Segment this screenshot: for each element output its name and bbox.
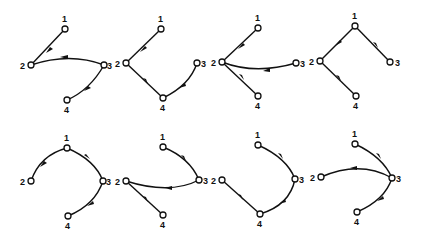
node-1 — [255, 142, 261, 148]
node-label: 3 — [107, 61, 112, 71]
node-label: 2 — [115, 59, 120, 69]
node-label: 1 — [255, 130, 260, 140]
node-1 — [158, 26, 164, 32]
node-label: 2 — [211, 58, 216, 68]
panel-5: 1 2 3 4 — [20, 133, 111, 231]
node-label: 2 — [310, 173, 315, 183]
node-label: 4 — [64, 105, 69, 115]
node-2 — [28, 178, 34, 184]
node-2 — [123, 178, 129, 184]
node-4 — [255, 93, 261, 99]
panel-8: 1 2 3 4 — [310, 129, 401, 227]
arrow-icon — [279, 199, 286, 204]
panel-6: 1 2 3 4 — [115, 132, 208, 230]
node-label: 2 — [20, 177, 25, 187]
node-label: 2 — [115, 177, 120, 187]
diagram-canvas: 1 2 3 4 1 2 3 4 1 2 3 4 — [0, 0, 423, 243]
node-1 — [64, 145, 70, 151]
node-4 — [65, 213, 71, 219]
node-label: 1 — [255, 13, 260, 23]
node-label: 4 — [65, 221, 70, 231]
node-4 — [160, 95, 166, 101]
node-label: 3 — [203, 176, 208, 186]
node-label: 1 — [352, 11, 357, 21]
node-4 — [354, 209, 360, 215]
node-label: 3 — [300, 59, 305, 69]
node-4 — [64, 97, 70, 103]
node-3 — [194, 60, 200, 66]
node-label: 4 — [354, 217, 359, 227]
node-2 — [318, 174, 324, 180]
node-label: 1 — [352, 129, 357, 139]
node-2 — [28, 62, 34, 68]
panel-1: 1 2 3 4 — [20, 14, 112, 115]
panel-3: 1 2 3 4 — [211, 13, 305, 111]
arrow-icon — [165, 186, 172, 190]
node-label: 4 — [353, 101, 358, 111]
panel-2: 1 2 3 4 — [115, 14, 206, 113]
node-2 — [219, 177, 225, 183]
node-1 — [255, 25, 261, 31]
node-label: 3 — [395, 58, 400, 68]
node-4 — [257, 211, 263, 217]
node-3 — [196, 177, 202, 183]
node-1 — [352, 23, 358, 29]
node-label: 4 — [255, 101, 260, 111]
panel-4: 1 2 3 4 — [309, 11, 400, 111]
node-2 — [123, 60, 129, 66]
node-3 — [293, 60, 299, 66]
node-label: 2 — [309, 57, 314, 67]
node-label: 2 — [20, 61, 25, 71]
node-3 — [292, 176, 298, 182]
node-label: 2 — [211, 176, 216, 186]
node-label: 3 — [201, 59, 206, 69]
node-4 — [160, 212, 166, 218]
node-4 — [353, 93, 359, 99]
panel-7: 1 2 3 4 — [211, 130, 304, 229]
node-label: 1 — [160, 132, 165, 142]
node-3 — [387, 59, 393, 65]
node-3 — [389, 175, 395, 181]
node-label: 1 — [158, 14, 163, 24]
node-label: 4 — [257, 219, 262, 229]
node-2 — [317, 58, 323, 64]
node-label: 3 — [299, 175, 304, 185]
arrow-icon — [238, 194, 243, 200]
node-label: 1 — [64, 133, 69, 143]
node-label: 4 — [160, 103, 165, 113]
node-label: 1 — [62, 14, 67, 24]
node-1 — [62, 26, 68, 32]
arrow-icon — [179, 83, 186, 88]
node-label: 3 — [396, 174, 401, 184]
node-1 — [352, 141, 358, 147]
node-label: 3 — [106, 177, 111, 187]
node-1 — [160, 144, 166, 150]
node-label: 4 — [160, 220, 165, 230]
node-2 — [219, 59, 225, 65]
